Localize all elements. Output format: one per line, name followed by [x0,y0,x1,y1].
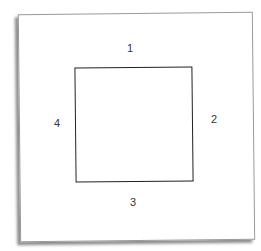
inner-square [74,66,193,182]
label-left: 4 [54,117,60,129]
label-top: 1 [127,42,133,54]
label-bottom: 3 [130,196,136,208]
label-right: 2 [211,113,217,125]
